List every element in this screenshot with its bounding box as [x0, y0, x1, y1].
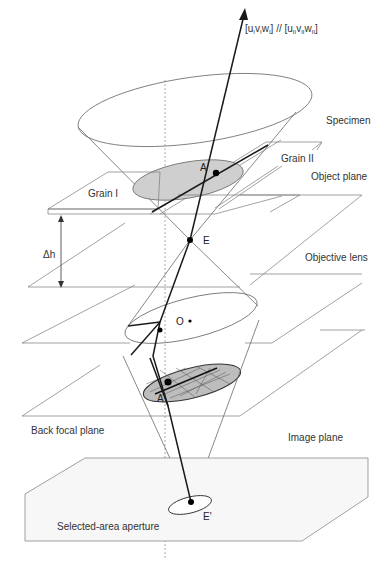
label-point-e: E — [203, 235, 210, 246]
label-objective-lens: Objective lens — [305, 252, 368, 263]
label-selected-area-aperture: Selected-area aperture — [57, 521, 160, 532]
label-back-focal-plane: Back focal plane — [31, 425, 105, 436]
label-point-o: O — [176, 316, 184, 327]
point-a-prime — [164, 378, 171, 385]
objective-cone — [120, 240, 262, 354]
delta-h-dimension — [58, 215, 64, 288]
point-ray-bend — [158, 328, 163, 333]
label-point-e-prime: E' — [203, 511, 212, 522]
points — [158, 170, 220, 505]
point-a — [213, 170, 219, 176]
specimen-cone — [74, 61, 317, 240]
label-delta-h: Δh — [43, 249, 55, 260]
label-grain-ii: Grain II — [281, 153, 314, 164]
label-grain-i: Grain I — [88, 188, 118, 199]
direction-label: [uIvIwI] // [uIIvIIwII] — [245, 23, 318, 35]
label-object-plane: Object plane — [311, 171, 368, 182]
label-point-a: A — [200, 162, 207, 173]
ray-path — [128, 8, 248, 502]
label-point-a-prime: A' — [157, 393, 166, 404]
electron-diffraction-diagram: [uIvIwI] // [uIIvIIwII] Specimen Grain I… — [0, 0, 392, 573]
point-o — [188, 319, 191, 322]
label-image-plane: Image plane — [288, 432, 343, 443]
label-specimen: Specimen — [326, 115, 370, 126]
point-e-prime — [188, 499, 194, 505]
point-e — [187, 237, 193, 243]
